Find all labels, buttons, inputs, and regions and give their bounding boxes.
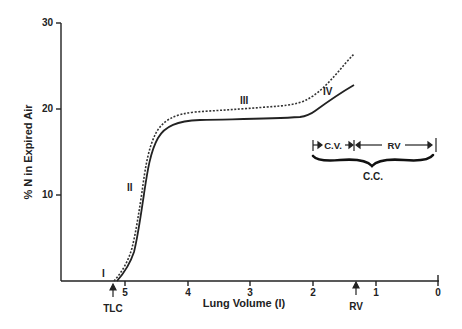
phase-ii-label: II: [127, 182, 133, 193]
y-tick-30: 30: [42, 17, 54, 28]
y-tick-10: 10: [42, 189, 54, 200]
x-tick-4: 4: [185, 287, 191, 298]
nitrogen-washout-chart: 30 20 10 5 4 3 2 1 0 TLC RV I II III IV: [0, 0, 462, 329]
rv-arrow-icon: [353, 282, 359, 295]
x-axis-label: Lung Volume (l): [203, 297, 285, 309]
phase-iv-label: IV: [323, 86, 333, 97]
cv-label: C.V.: [324, 140, 342, 151]
axes: [56, 23, 439, 286]
chart-canvas: 30 20 10 5 4 3 2 1 0 TLC RV I II III IV: [0, 0, 462, 329]
cc-brace: [313, 155, 433, 166]
cc-label: C.C.: [363, 171, 383, 182]
x-tick-5: 5: [122, 287, 128, 298]
phase-i-label: I: [102, 268, 105, 279]
y-tick-20: 20: [42, 103, 54, 114]
x-tick-1: 1: [373, 287, 379, 298]
tlc-label: TLC: [103, 303, 122, 314]
solid-curve: [117, 85, 354, 281]
dotted-curve: [114, 54, 354, 281]
x-tick-0: 0: [435, 287, 441, 298]
rv-marker-label: RV: [349, 301, 363, 312]
tlc-arrow-icon: [110, 284, 116, 297]
rv-bracket-label: RV: [387, 140, 401, 151]
x-tick-2: 2: [310, 287, 316, 298]
y-axis-label: % N in Expired Air: [22, 105, 34, 200]
phase-iii-label: III: [240, 95, 249, 106]
